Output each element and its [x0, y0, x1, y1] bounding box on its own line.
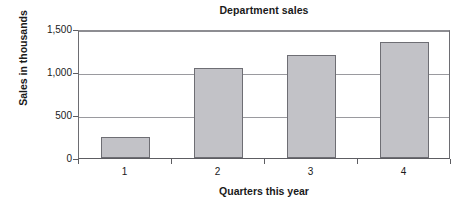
- bar-3: [287, 55, 335, 158]
- x-tickmark: [78, 159, 79, 164]
- y-tick-label: 0: [0, 153, 72, 164]
- bar-1: [101, 137, 149, 158]
- bar-4: [380, 42, 428, 158]
- y-tick-label: 1,000: [0, 67, 72, 78]
- x-axis-title: Quarters this year: [78, 185, 450, 197]
- bar-2: [194, 68, 242, 158]
- bar-chart-figure: Department sales Sales in thousands 0500…: [0, 0, 470, 213]
- x-tickmark: [357, 159, 358, 164]
- gridline-1500: [79, 31, 449, 32]
- y-tick-label: 1,500: [0, 24, 72, 35]
- y-tick-label: 500: [0, 110, 72, 121]
- x-tickmark: [450, 159, 451, 164]
- x-tick-label: 1: [105, 166, 145, 177]
- x-tick-label: 4: [384, 166, 424, 177]
- plot-area: [78, 30, 450, 159]
- chart-title: Department sales: [78, 4, 450, 16]
- x-tickmark: [264, 159, 265, 164]
- x-tick-label: 3: [291, 166, 331, 177]
- x-tickmark: [171, 159, 172, 164]
- y-axis-title: Sales in thousands: [17, 0, 29, 123]
- x-tick-label: 2: [198, 166, 238, 177]
